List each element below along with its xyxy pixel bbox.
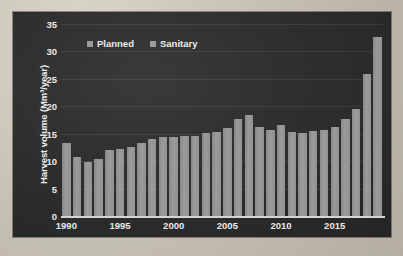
bar-series-planned xyxy=(61,24,383,216)
chart-legend: PlannedSanitary xyxy=(87,38,197,49)
bar xyxy=(137,143,145,217)
bar xyxy=(373,37,381,216)
bar xyxy=(191,136,199,216)
y-tick-label: 25 xyxy=(39,73,57,84)
y-tick-label: 35 xyxy=(39,19,57,30)
bar xyxy=(363,74,371,216)
legend-swatch-icon xyxy=(87,41,93,47)
x-tick-label: 2010 xyxy=(270,220,291,231)
bar xyxy=(84,162,92,216)
bar xyxy=(288,132,296,216)
bar xyxy=(202,133,210,216)
x-tick-label: 1995 xyxy=(109,220,130,231)
x-axis-line xyxy=(61,216,385,218)
bar xyxy=(255,127,263,216)
bar xyxy=(105,150,113,216)
x-tick-label: 2005 xyxy=(217,220,238,231)
legend-entry[interactable]: Planned xyxy=(87,38,134,49)
bar xyxy=(169,137,177,216)
chart-screenshot: Harvest volume (Mm³/year) 05101520253035… xyxy=(0,0,403,256)
bar xyxy=(127,147,135,216)
x-axis-tick-labels: 199019952000200520102015 xyxy=(61,220,383,237)
legend-entry[interactable]: Sanitary xyxy=(150,38,198,49)
bar xyxy=(277,125,285,216)
bar xyxy=(309,131,317,216)
bar xyxy=(298,133,306,216)
bar xyxy=(212,132,220,216)
bar xyxy=(73,157,81,216)
bar xyxy=(341,119,349,216)
bar xyxy=(148,139,156,216)
bar xyxy=(159,137,167,216)
bar xyxy=(320,130,328,216)
bar xyxy=(266,130,274,216)
bar xyxy=(234,119,242,216)
bar xyxy=(223,128,231,216)
bar xyxy=(352,109,360,216)
bar xyxy=(116,149,124,216)
x-tick-label: 1990 xyxy=(56,220,77,231)
bar-chart-panel: Harvest volume (Mm³/year) 05101520253035… xyxy=(13,12,391,237)
bar xyxy=(62,143,70,217)
y-tick-label: 30 xyxy=(39,46,57,57)
legend-label: Planned xyxy=(97,38,134,49)
bar xyxy=(245,115,253,216)
y-tick-label: 5 xyxy=(39,183,57,194)
bar xyxy=(331,127,339,216)
x-tick-label: 2000 xyxy=(163,220,184,231)
x-tick-label: 2015 xyxy=(324,220,345,231)
bar xyxy=(180,136,188,216)
plot-area xyxy=(61,24,383,216)
bar xyxy=(94,159,102,216)
y-tick-label: 20 xyxy=(39,101,57,112)
y-tick-label: 0 xyxy=(39,211,57,222)
y-tick-label: 15 xyxy=(39,128,57,139)
y-tick-label: 10 xyxy=(39,156,57,167)
legend-swatch-icon xyxy=(150,41,156,47)
y-axis-tick-labels: 05101520253035 xyxy=(35,12,57,237)
legend-label: Sanitary xyxy=(160,38,198,49)
